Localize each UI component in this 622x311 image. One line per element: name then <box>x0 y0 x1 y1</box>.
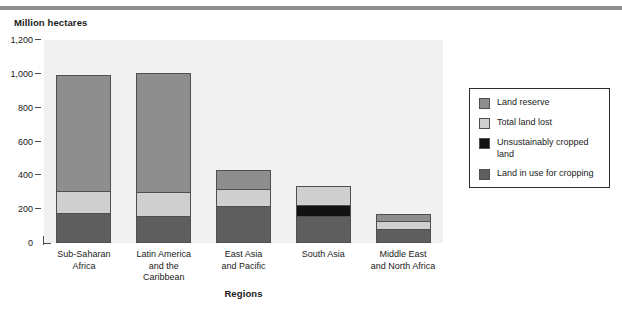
y-axis-tick-mark <box>35 174 41 175</box>
y-axis-tick-mark <box>35 107 41 108</box>
x-axis-label: Middle East and North Africa <box>355 249 451 272</box>
y-axis-tick-mark <box>35 39 41 40</box>
y-axis-tick: 800 <box>0 102 44 114</box>
legend-swatch-icon <box>479 98 490 109</box>
bar-segment <box>217 206 270 242</box>
legend-item-unsustainably_cropped_land[interactable]: Unsustainably cropped land <box>479 137 603 160</box>
y-axis-tick-mark <box>35 141 41 142</box>
bar-segment <box>297 187 350 205</box>
y-axis-tick: 400 <box>0 169 44 181</box>
y-axis-tick: 0 <box>0 237 44 249</box>
bar-4[interactable] <box>296 186 351 243</box>
bar-3[interactable] <box>216 170 271 243</box>
y-axis-tick: 1,200 <box>0 34 44 46</box>
y-axis-tick-label: 0 <box>28 237 33 249</box>
legend-swatch-icon <box>479 138 490 149</box>
bar-segment <box>57 213 110 242</box>
chart-legend: Land reserveTotal land lostUnsustainably… <box>469 88 610 188</box>
y-axis-tick-label: 400 <box>18 169 33 181</box>
y-axis-tick-mark <box>35 73 41 74</box>
bar-segment <box>57 76 110 191</box>
y-axis-tick-label: 1,200 <box>10 34 33 46</box>
y-axis-tick-label: 800 <box>18 102 33 114</box>
y-axis-tick-mark <box>35 208 41 209</box>
y-axis-tick-label: 200 <box>18 203 33 215</box>
legend-item-land_in_use_for_cropping[interactable]: Land in use for cropping <box>479 168 603 180</box>
y-axis-tick-label: 1,000 <box>10 68 33 80</box>
legend-item-label: Land reserve <box>497 97 550 109</box>
y-axis-tick: 600 <box>0 136 44 148</box>
bar-1[interactable] <box>56 75 111 243</box>
x-axis-title: Regions <box>0 288 487 299</box>
bar-segment <box>137 192 190 216</box>
bar-segment <box>137 74 190 192</box>
legend-swatch-icon <box>479 169 490 180</box>
bar-segment <box>57 191 110 213</box>
bar-segment <box>297 205 350 216</box>
y-axis-title: Million hectares <box>14 17 87 28</box>
y-axis-tick: 200 <box>0 203 44 215</box>
legend-item-label: Land in use for cropping <box>497 168 594 180</box>
legend-item-label: Unsustainably cropped land <box>497 137 603 160</box>
bar-segment <box>297 216 350 242</box>
legend-item-label: Total land lost <box>497 117 552 129</box>
bar-segment <box>217 189 270 206</box>
header-divider-rule <box>0 6 622 10</box>
bar-2[interactable] <box>136 73 191 243</box>
bar-segment <box>377 229 430 242</box>
y-axis-tick-label: 600 <box>18 136 33 148</box>
x-axis-line <box>43 243 51 244</box>
bar-5[interactable] <box>376 214 431 243</box>
bar-segment <box>137 216 190 242</box>
legend-item-land_reserve[interactable]: Land reserve <box>479 97 603 109</box>
legend-swatch-icon <box>479 118 490 129</box>
legend-item-total_land_lost[interactable]: Total land lost <box>479 117 603 129</box>
bar-segment <box>377 221 430 230</box>
bar-segment <box>217 171 270 188</box>
y-axis-tick: 1,000 <box>0 68 44 80</box>
